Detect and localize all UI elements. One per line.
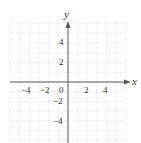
y-tick-label: 4 <box>59 38 64 47</box>
x-tick-label: −2 <box>40 86 50 95</box>
y-tick-label: 2 <box>59 58 64 67</box>
x-axis-label: x <box>132 76 137 87</box>
origin-label: 0 <box>59 86 64 95</box>
y-axis-arrow-icon <box>66 21 71 28</box>
axes <box>10 24 128 143</box>
x-tick-label: 4 <box>103 86 108 95</box>
x-tick-label: 2 <box>84 86 89 95</box>
y-axis-label: y <box>64 9 69 20</box>
coordinate-plane <box>0 0 141 143</box>
y-tick-label: −4 <box>53 117 63 126</box>
x-axis-arrow-icon <box>124 80 131 85</box>
y-tick-label: −2 <box>53 97 63 106</box>
x-tick-label: −4 <box>21 86 31 95</box>
